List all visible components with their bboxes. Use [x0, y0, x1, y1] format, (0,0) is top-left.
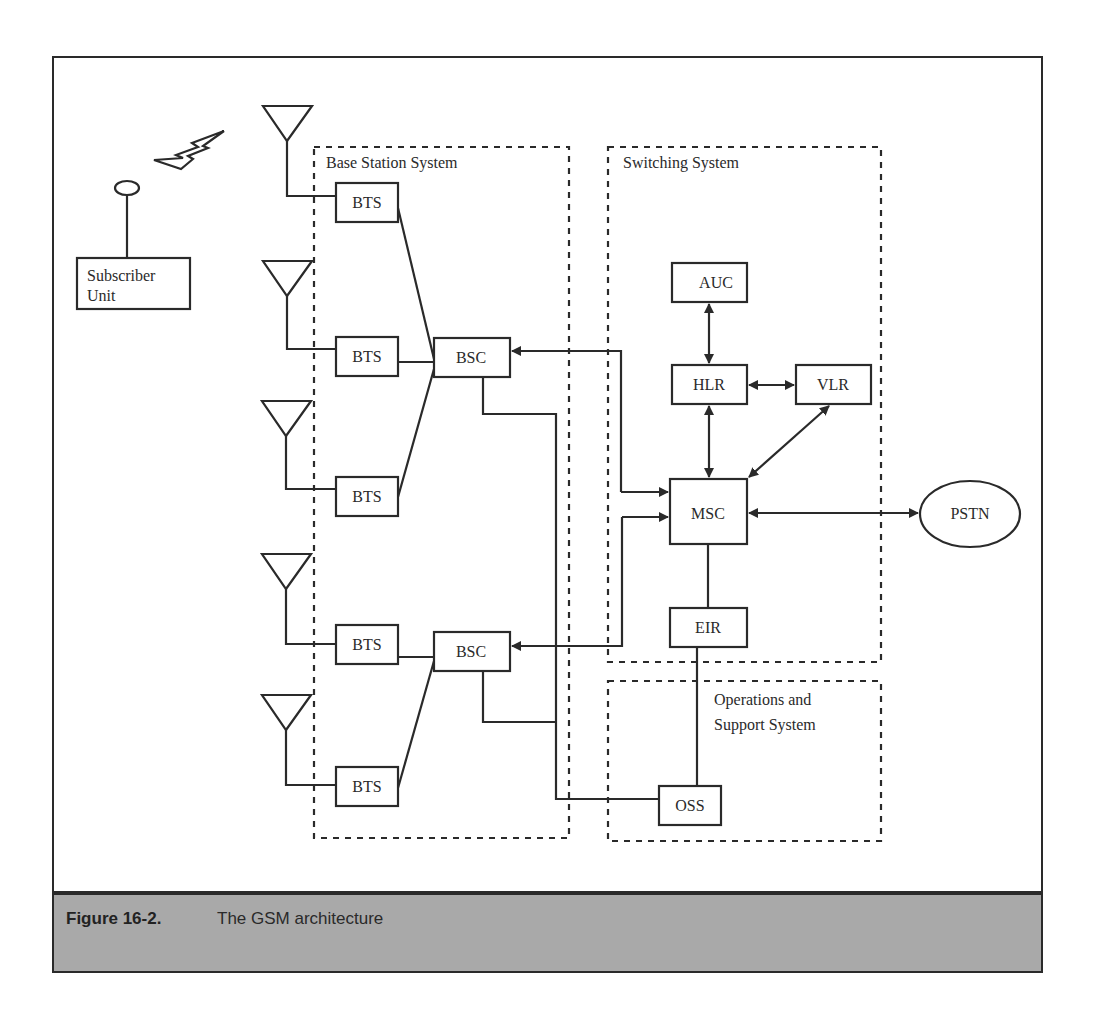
- antenna-icon: [263, 106, 336, 196]
- bsc-label-1: BSC: [456, 349, 486, 366]
- hlr-label: HLR: [693, 376, 725, 393]
- switching-system-label: Switching System: [623, 154, 740, 172]
- base-station-system-label: Base Station System: [326, 154, 458, 172]
- oss-group-label-line2: Support System: [714, 716, 816, 734]
- gsm-architecture-diagram: Base Station System Switching System Ope…: [0, 0, 1099, 1013]
- eir-label: EIR: [695, 619, 721, 636]
- bts-label-2: BTS: [352, 348, 381, 365]
- oss-group-label-line1: Operations and: [714, 691, 811, 709]
- antenna-icon: [262, 554, 336, 644]
- bts-label-1: BTS: [352, 194, 381, 211]
- figure-caption-band: Figure 16-2. The GSM architecture: [52, 891, 1043, 973]
- msc-label: MSC: [691, 505, 725, 522]
- bsc-label-2: BSC: [456, 643, 486, 660]
- antenna-icon: [263, 261, 336, 349]
- oss-label: OSS: [675, 797, 704, 814]
- antenna-icon: [262, 401, 336, 489]
- vlr-label: VLR: [817, 376, 849, 393]
- bts-label-4: BTS: [352, 636, 381, 653]
- auc-label: AUC: [699, 274, 733, 291]
- figure-caption: The GSM architecture: [217, 909, 383, 929]
- subscriber-label-line1: Subscriber: [87, 267, 156, 284]
- pstn-label: PSTN: [950, 505, 990, 522]
- figure-number: Figure 16-2.: [66, 909, 161, 929]
- antenna-icon: [262, 695, 336, 785]
- lightning-bolt-icon: [154, 131, 224, 169]
- bts-label-5: BTS: [352, 778, 381, 795]
- bts-label-3: BTS: [352, 488, 381, 505]
- subscriber-label-line2: Unit: [87, 287, 116, 304]
- mobile-antenna-icon: [115, 181, 139, 195]
